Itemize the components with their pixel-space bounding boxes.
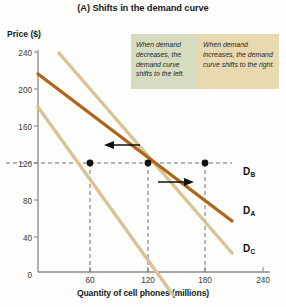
- annotation-decrease: When demand decreases, the demand curve …: [131, 34, 198, 89]
- curve-label-db-letter: D: [243, 166, 250, 177]
- demand-curve-chart: (A) Shifts in the demand curve Price ($)…: [0, 0, 286, 307]
- curve-label-dc-sub: C: [251, 248, 256, 255]
- equilibrium-point-db: [202, 160, 209, 167]
- equilibrium-point-dc: [87, 160, 94, 167]
- curve-label-dc: DC: [243, 243, 255, 254]
- curve-label-da: DA: [243, 205, 255, 216]
- annotation-increase: When demand increases, the demand curve …: [198, 34, 279, 89]
- curve-label-da-sub: A: [251, 210, 256, 217]
- curve-label-dc-letter: D: [243, 243, 250, 254]
- demand-curve-dc: [38, 107, 173, 295]
- curve-label-db: DB: [243, 166, 255, 177]
- equilibrium-point-da: [145, 160, 152, 167]
- curve-label-da-letter: D: [243, 205, 250, 216]
- curve-label-db-sub: B: [251, 171, 256, 178]
